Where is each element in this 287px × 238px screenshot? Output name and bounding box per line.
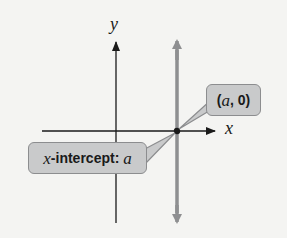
x-axis-label: x [225,118,233,139]
coordinate-plane [0,0,287,238]
paren-close: ) [246,93,251,107]
y-axis-label: y [110,14,118,35]
point-sep: , [230,93,238,107]
intercept-callout: x-intercept: a [28,142,147,174]
intercept-var-a: a [123,150,132,167]
intercept-var-x: x [43,150,51,167]
point-callout: (a, 0) [206,84,261,116]
point-var-a: a [221,92,230,109]
point-zero: 0 [238,93,246,107]
intercept-callout-pointer [143,133,175,163]
intercept-text: -intercept: [51,151,123,165]
